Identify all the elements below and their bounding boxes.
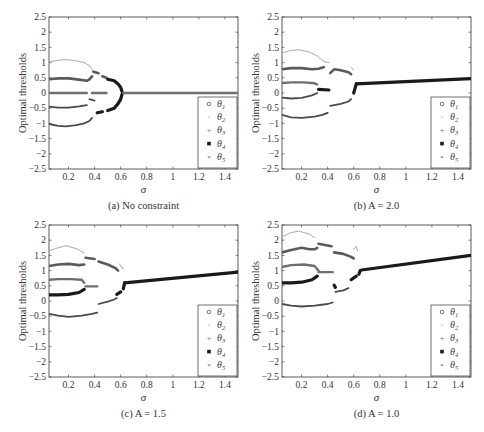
series-θ1	[49, 264, 84, 266]
series-θ1	[102, 76, 106, 78]
x-tick-label: 0.2	[296, 380, 308, 390]
y-tick-label: −2	[36, 357, 46, 367]
series-θ2	[351, 67, 354, 70]
y-tick-label: 0.5	[34, 281, 46, 291]
y-axis-label: Optimal thresholds	[250, 53, 261, 133]
y-tick-label: 2	[274, 27, 279, 37]
y-tick-label: 1.5	[267, 43, 279, 53]
series-θ4	[356, 79, 471, 84]
y-tick-label: −0.5	[29, 311, 46, 321]
legend-marker-star-icon: *	[207, 154, 211, 162]
series-θ5	[282, 93, 317, 99]
x-tick-label: 0.2	[296, 172, 308, 182]
series-θ4	[108, 95, 122, 111]
x-tick-label: 1.2	[426, 380, 438, 390]
series-θ2	[49, 60, 92, 70]
series-θ1	[49, 76, 92, 81]
y-tick-label: 1	[41, 58, 46, 68]
legend-marker-plus-icon: +	[440, 126, 445, 135]
series-θ5	[49, 118, 92, 127]
y-tick-label: 0.5	[267, 281, 279, 291]
x-tick-label: 0.2	[63, 172, 75, 182]
legend-marker-plus-icon: +	[207, 334, 212, 343]
y-tick-label: −2	[36, 149, 46, 159]
legend-marker-square-icon	[207, 142, 211, 146]
x-tick-label: 1.4	[219, 172, 231, 182]
y-tick-label: 1.5	[267, 251, 279, 261]
series-θ4	[319, 89, 329, 90]
series-θ1	[282, 248, 317, 253]
y-tick-label: −1.5	[262, 134, 279, 144]
y-axis-label: Optimal thresholds	[250, 261, 261, 341]
legend: θ1θ2+θ3θ4*θ5	[198, 97, 237, 168]
x-tick-label: 1.4	[452, 172, 464, 182]
x-tick-label: 1.4	[219, 380, 231, 390]
y-tick-label: −2.5	[29, 372, 46, 382]
y-tick-label: −2.5	[262, 372, 279, 382]
series-θ1	[319, 244, 332, 247]
series-θ4	[282, 276, 317, 283]
x-tick-label: 0.4	[322, 172, 334, 182]
legend-marker-dot-icon	[208, 325, 209, 326]
y-tick-label: 0	[41, 296, 46, 306]
x-tick-label: 1.2	[426, 172, 438, 182]
series-θ4	[351, 276, 356, 280]
y-tick-label: 0.5	[267, 73, 279, 83]
x-tick-label: 0.4	[89, 380, 101, 390]
series-θ2	[282, 231, 315, 238]
y-tick-label: −0.5	[262, 103, 279, 113]
x-tick-label: 1.2	[193, 172, 205, 182]
x-axis-label: σ	[141, 183, 147, 195]
x-tick-label: 0.8	[374, 380, 386, 390]
panel-caption: (c) A = 1.5	[121, 408, 166, 420]
legend-marker-plus-icon: +	[440, 334, 445, 343]
y-tick-label: 0	[274, 296, 279, 306]
y-tick-label: 2.5	[267, 12, 279, 22]
series-θ2	[282, 50, 325, 62]
legend: θ1θ2+θ3θ4*θ5	[198, 305, 237, 376]
series-θ4	[108, 79, 122, 91]
x-tick-label: 0.8	[141, 172, 153, 182]
legend-marker-dot-icon	[208, 117, 209, 118]
legend-marker-dot-icon	[441, 325, 442, 326]
series-θ4	[359, 271, 360, 275]
x-tick-label: 1.2	[193, 380, 205, 390]
y-tick-label: 2.5	[34, 12, 46, 22]
y-tick-label: 0	[41, 88, 46, 98]
series-θ5	[335, 288, 348, 292]
series-θ5	[282, 303, 333, 307]
figure: −2.5−2−1.5−1−0.500.511.522.50.20.40.60.8…	[0, 0, 484, 432]
x-axis-label: σ	[374, 183, 380, 195]
series-θ2	[119, 264, 123, 269]
y-tick-label: 1	[274, 266, 279, 276]
y-tick-label: −1	[36, 119, 46, 129]
y-tick-label: −1	[269, 119, 279, 129]
series-θ4	[117, 292, 121, 294]
x-tick-label: 1.4	[452, 380, 464, 390]
panel-caption: (a) No constraint	[108, 200, 179, 212]
series-θ5	[330, 99, 351, 106]
series-θ3	[49, 279, 84, 283]
y-tick-label: −2.5	[262, 164, 279, 174]
x-tick-label: 1	[403, 380, 408, 390]
legend-marker-square-icon	[440, 350, 444, 354]
y-tick-label: −1.5	[29, 342, 46, 352]
x-tick-label: 0.8	[141, 380, 153, 390]
y-tick-label: 0.5	[34, 73, 46, 83]
y-tick-label: 1	[274, 58, 279, 68]
x-axis-label: σ	[374, 391, 380, 403]
panel-a: −2.5−2−1.5−1−0.500.511.522.50.20.40.60.8…	[17, 12, 238, 212]
legend: θ1θ2+θ3θ4*θ5	[431, 305, 470, 376]
y-tick-label: 2	[41, 27, 46, 37]
y-tick-label: 1	[41, 266, 46, 276]
x-tick-label: 1	[170, 380, 175, 390]
y-tick-label: 2	[274, 235, 279, 245]
x-tick-label: 0.6	[348, 172, 360, 182]
series-θ2	[325, 62, 329, 63]
x-tick-label: 1	[403, 172, 408, 182]
legend-marker-star-icon: *	[440, 154, 444, 162]
series-θ3	[282, 82, 317, 84]
series-θ4	[334, 285, 335, 287]
y-tick-label: 1.5	[34, 251, 46, 261]
series-θ1	[282, 67, 324, 69]
